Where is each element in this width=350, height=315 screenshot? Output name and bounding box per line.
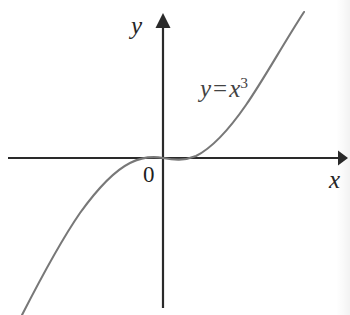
equation-annotation: y=x3 (200, 76, 248, 101)
x-axis-label: x (329, 167, 340, 192)
x-axis-arrowhead (338, 151, 348, 166)
y-axis-label: y (131, 13, 142, 38)
equation-base: x (229, 75, 240, 102)
y-axis-arrowhead (156, 13, 171, 28)
equation-lhs: y (200, 75, 211, 102)
origin-label: 0 (143, 163, 155, 186)
equation-operator: = (211, 75, 229, 102)
cubic-function-figure: y x 0 y=x3 (0, 0, 350, 315)
graph-canvas (0, 0, 350, 315)
equation-exponent: 3 (240, 74, 248, 91)
